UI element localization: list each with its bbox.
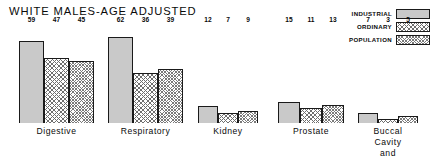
bar-value-label: 13: [329, 15, 336, 24]
bar-value-label: 7: [226, 15, 230, 24]
bar-rect: 9: [238, 111, 258, 123]
bar-rect: 15: [278, 102, 300, 123]
category-label: Digestive: [37, 126, 77, 137]
bar-industrial: 59: [19, 24, 44, 123]
bar-chart: WHITE MALES-AGE ADJUSTED INDUSTRIAL ORDI…: [0, 0, 434, 159]
bar-rect: 39: [158, 69, 183, 123]
bar-rect: 12: [198, 106, 218, 123]
bar-population: 9: [238, 24, 258, 123]
bar-ordinary: 3: [378, 24, 398, 123]
bar-population: 45: [69, 24, 94, 123]
bar-population: 13: [322, 24, 344, 123]
bar-value-label: 59: [28, 15, 35, 24]
bar-rect: 13: [322, 105, 344, 123]
bar-value-label: 5: [406, 15, 410, 24]
bar-group: 623639: [108, 24, 183, 123]
bar-ordinary: 11: [300, 24, 322, 123]
bar-rect: 3: [378, 119, 398, 123]
bar-value-label: 47: [53, 15, 60, 24]
bar-rect: 11: [300, 108, 322, 123]
bar-rect: 7: [358, 113, 378, 123]
bar-rect: 7: [218, 113, 238, 123]
category-label: Kidney: [213, 126, 242, 137]
category-label: Prostate: [293, 126, 329, 137]
bar-rect: 59: [19, 41, 44, 123]
bar-industrial: 15: [278, 24, 300, 123]
bar-rect: 5: [398, 116, 418, 123]
bar-group: 1279: [198, 24, 258, 123]
legend-swatch-industrial: [396, 9, 430, 19]
bar-population: 5: [398, 24, 418, 123]
bar-industrial: 7: [358, 24, 378, 123]
category-label: Buccal Cavity and Pharynx: [365, 126, 411, 159]
bar-rect: 62: [108, 37, 133, 123]
bar-population: 39: [158, 24, 183, 123]
plot-area: 5947456236391279151113735: [0, 24, 434, 123]
category-axis: DigestiveRespiratoryKidneyProstateBuccal…: [0, 126, 434, 159]
bar-rect: 36: [133, 73, 158, 123]
bar-ordinary: 36: [133, 24, 158, 123]
bar-industrial: 62: [108, 24, 133, 123]
bar-value-label: 11: [308, 15, 315, 24]
bar-value-label: 36: [142, 15, 149, 24]
bar-value-label: 3: [386, 15, 390, 24]
bar-ordinary: 7: [218, 24, 238, 123]
bar-value-label: 15: [285, 15, 292, 24]
bar-rect: 45: [69, 61, 94, 123]
category-label: Respiratory: [121, 126, 170, 137]
bar-group: 735: [358, 24, 418, 123]
bar-group: 594745: [19, 24, 94, 123]
bar-value-label: 12: [204, 15, 211, 24]
bar-value-label: 7: [366, 15, 370, 24]
bar-ordinary: 47: [44, 24, 69, 123]
bar-value-label: 45: [78, 15, 85, 24]
bar-value-label: 9: [246, 15, 250, 24]
bar-value-label: 39: [167, 15, 174, 24]
bar-value-label: 62: [117, 15, 124, 24]
bar-industrial: 12: [198, 24, 218, 123]
bar-group: 151113: [278, 24, 344, 123]
bar-rect: 47: [44, 58, 69, 123]
